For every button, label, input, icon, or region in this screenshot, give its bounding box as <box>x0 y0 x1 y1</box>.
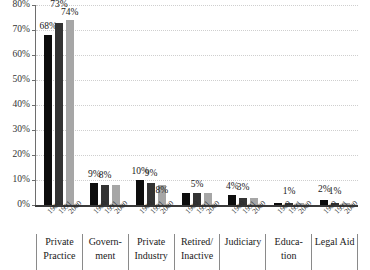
category-label-cell: Legal Aid <box>311 234 358 270</box>
year-label-group: 198019912000 <box>220 209 266 235</box>
year-slot: 1980 <box>135 209 146 235</box>
bar-slot[interactable]: 2% <box>320 5 328 205</box>
bar-slot[interactable]: 73% <box>55 5 63 205</box>
bar-value-label: 3% <box>237 182 250 192</box>
plot-area: 68%73%74%9%8%10%9%8%5%4%3%1%2%1% <box>35 5 358 207</box>
y-tick-label: 10% <box>13 176 30 186</box>
bar-slot[interactable] <box>342 5 350 205</box>
year-slot: 2000 <box>64 209 75 235</box>
bar[interactable] <box>44 35 52 205</box>
category-label-line: Private <box>45 235 73 249</box>
bar-slot[interactable]: 8% <box>158 5 166 205</box>
bar-slot[interactable]: 5% <box>193 5 201 205</box>
category-label-cell: Retired/Inactive <box>174 234 220 270</box>
year-label-group: 198019912000 <box>82 209 128 235</box>
bar-slot[interactable]: 3% <box>239 5 247 205</box>
year-slot: 1991 <box>100 209 111 235</box>
category-label-cell: PrivatePractice <box>36 234 82 270</box>
category-labels: PrivatePracticeGovern-mentPrivateIndustr… <box>36 234 358 270</box>
bar-value-label: 74% <box>61 7 78 17</box>
bar-slot[interactable]: 68% <box>44 5 52 205</box>
y-tickmark <box>32 5 35 6</box>
year-slot: 1991 <box>284 209 295 235</box>
bar-slot[interactable] <box>274 5 282 205</box>
y-tickmark <box>32 130 35 131</box>
year-slot: 1991 <box>238 209 249 235</box>
y-tick-label: 80% <box>13 0 30 10</box>
y-tick-label: 60% <box>13 50 30 60</box>
category-label-line: tion <box>281 249 297 263</box>
year-label-group: 198019912000 <box>312 209 358 235</box>
bar-slot[interactable] <box>296 5 304 205</box>
bar-value-label: 5% <box>191 179 204 189</box>
bar-value-label: 1% <box>283 186 296 196</box>
category-label-line: Private <box>137 235 165 249</box>
bar-slot[interactable]: 1% <box>331 5 339 205</box>
year-slot: 1991 <box>192 209 203 235</box>
year-tick-labels: 1980199120001980199120001980199120001980… <box>36 209 358 235</box>
bar-slot[interactable]: 74% <box>66 5 74 205</box>
category-label-cell: PrivateIndustry <box>128 234 174 270</box>
y-tick-label: 30% <box>13 126 30 136</box>
category-label-line: Practice <box>43 249 75 263</box>
year-slot: 1980 <box>319 209 330 235</box>
bar-group: 10%9%8% <box>128 5 174 205</box>
year-slot: 2000 <box>110 209 121 235</box>
y-tickmark <box>32 30 35 31</box>
bar-chart: 80%70%60%50%40%30%20%10%0% 68%73%74%9%8%… <box>0 0 370 270</box>
year-slot: 1980 <box>181 209 192 235</box>
y-tick-label: 40% <box>13 100 30 110</box>
category-label-line: Inactive <box>181 249 213 263</box>
year-slot: 1991 <box>54 209 65 235</box>
y-tick-label: 50% <box>13 75 30 85</box>
bar-slot[interactable]: 10% <box>136 5 144 205</box>
bar-group: 9%8% <box>82 5 128 205</box>
y-tickmark <box>32 55 35 56</box>
bar-slot[interactable] <box>204 5 212 205</box>
y-axis: 80%70%60%50%40%30%20%10%0% <box>0 0 32 212</box>
category-label-cell: Judiciary <box>219 234 265 270</box>
bar[interactable] <box>55 23 63 206</box>
bar[interactable] <box>66 20 74 205</box>
category-label-line: Industry <box>134 249 167 263</box>
bar-slot[interactable] <box>112 5 120 205</box>
y-tick-label: 0% <box>17 201 30 211</box>
year-slot: 1991 <box>146 209 157 235</box>
bar-slot[interactable]: 1% <box>285 5 293 205</box>
bar-slot[interactable] <box>250 5 258 205</box>
bar-slot[interactable]: 8% <box>101 5 109 205</box>
bar-group: 4%3% <box>220 5 266 205</box>
category-label-line: ment <box>95 249 115 263</box>
bar-value-label: 8% <box>99 170 112 180</box>
year-slot: 2000 <box>202 209 213 235</box>
category-label-cell: Educa-tion <box>265 234 311 270</box>
bar-slot[interactable]: 4% <box>228 5 236 205</box>
year-slot: 2000 <box>294 209 305 235</box>
year-label-group: 198019912000 <box>174 209 220 235</box>
year-slot: 2000 <box>156 209 167 235</box>
category-label-line: Legal Aid <box>315 235 355 249</box>
category-label-line: Educa- <box>275 235 303 249</box>
year-slot: 2000 <box>248 209 259 235</box>
bar-value-label: 1% <box>329 186 342 196</box>
y-tick-label: 70% <box>13 25 30 35</box>
year-slot: 1980 <box>43 209 54 235</box>
category-label-line: Retired/ <box>181 235 213 249</box>
bar-slot[interactable]: 9% <box>90 5 98 205</box>
year-slot: 1980 <box>227 209 238 235</box>
y-tickmark <box>32 80 35 81</box>
year-label-group: 198019912000 <box>266 209 312 235</box>
year-slot: 1991 <box>330 209 341 235</box>
bar-slot[interactable] <box>182 5 190 205</box>
year-slot: 2000 <box>340 209 351 235</box>
category-label-line: Judiciary <box>225 235 262 249</box>
bar-slot[interactable]: 9% <box>147 5 155 205</box>
category-label-cell: Govern-ment <box>82 234 128 270</box>
bar-group: 1% <box>266 5 312 205</box>
y-tick-label: 20% <box>13 151 30 161</box>
y-tickmark <box>32 105 35 106</box>
bar-value-label: 8% <box>155 185 168 195</box>
bar-groups: 68%73%74%9%8%10%9%8%5%4%3%1%2%1% <box>36 5 358 205</box>
y-tickmark <box>32 180 35 181</box>
year-label-group: 198019912000 <box>128 209 174 235</box>
